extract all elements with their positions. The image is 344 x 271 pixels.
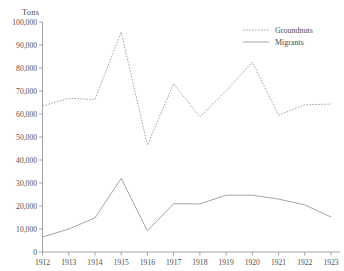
y-tick-label: 90,000 (16, 41, 37, 50)
y-tick-label: 40,000 (16, 156, 37, 165)
y-tick-label: 80,000 (16, 64, 37, 73)
x-tick-label: 1913 (61, 258, 76, 267)
x-tick-label: 1916 (140, 258, 155, 267)
x-tick-label: 1922 (297, 258, 312, 267)
y-axis-ticks: 010,00020,00030,00040,00050,00060,00070,… (12, 18, 42, 257)
y-tick-label: 100,000 (12, 18, 37, 27)
chart-legend: GroundnutsMigrants (243, 26, 313, 47)
series-line-groundnuts (43, 32, 332, 145)
chart-figure: ................ Tons 010,00020,00030,00… (0, 0, 344, 271)
x-tick-label: 1912 (35, 258, 50, 267)
x-tick-label: 1918 (192, 258, 207, 267)
y-tick-label: 50,000 (16, 133, 37, 142)
x-tick-label: 1917 (166, 258, 181, 267)
y-tick-label: 10,000 (16, 225, 37, 234)
series-line-migrants (43, 178, 332, 237)
y-tick-label: 30,000 (16, 179, 37, 188)
x-tick-label: 1920 (245, 258, 260, 267)
x-tick-label: 1914 (87, 258, 102, 267)
y-tick-label: 70,000 (16, 87, 37, 96)
y-tick-label: 60,000 (16, 110, 37, 119)
x-tick-label: 1921 (271, 258, 286, 267)
series-paths (43, 32, 332, 237)
legend-label-migrants: Migrants (275, 38, 304, 47)
y-tick-label: 0 (33, 248, 37, 257)
x-tick-label: 1915 (114, 258, 129, 267)
legend-label-groundnuts: Groundnuts (275, 26, 313, 35)
line-chart-plot: 010,00020,00030,00040,00050,00060,00070,… (0, 0, 344, 271)
y-tick-label: 20,000 (16, 202, 37, 211)
x-axis-ticks: 1912191319141915191619171918191919201921… (35, 252, 339, 267)
x-tick-label: 1923 (323, 258, 338, 267)
x-tick-label: 1919 (218, 258, 233, 267)
